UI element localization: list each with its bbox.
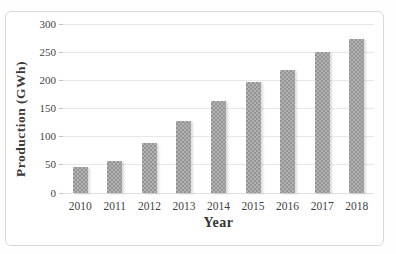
bar-chart-figure: Production (GWh) 050100150200250300 2010…: [0, 0, 396, 254]
bar-2014: [211, 101, 226, 193]
bar-2018: [349, 39, 364, 192]
y-tick-mark-0: [59, 193, 63, 194]
bar-2012: [142, 143, 157, 192]
y-tick-label-0: 0: [22, 187, 56, 199]
y-tick-label-200: 200: [22, 74, 56, 86]
y-tick-label-250: 250: [22, 46, 56, 58]
y-tick-mark-300: [59, 24, 63, 25]
y-tick-mark-150: [59, 108, 63, 109]
gridline-0: [63, 193, 374, 194]
y-tick-label-150: 150: [22, 102, 56, 114]
bar-2015: [246, 82, 261, 192]
y-tick-label-50: 50: [22, 158, 56, 170]
x-tick-label-2018: 2018: [337, 200, 377, 213]
y-tick-label-100: 100: [22, 130, 56, 142]
bar-2016: [280, 70, 295, 193]
plot-area: [63, 24, 374, 193]
y-tick-mark-100: [59, 136, 63, 137]
gridline-300: [63, 24, 374, 25]
bar-2017: [315, 52, 330, 193]
y-tick-mark-200: [59, 80, 63, 81]
x-axis-title: Year: [63, 215, 374, 231]
y-tick-label-300: 300: [22, 18, 56, 30]
y-tick-mark-250: [59, 52, 63, 53]
bar-2013: [176, 121, 191, 193]
y-tick-mark-50: [59, 164, 63, 165]
bar-2010: [73, 167, 88, 192]
bar-2011: [107, 161, 122, 193]
y-axis-title: Production (GWh): [13, 39, 31, 199]
